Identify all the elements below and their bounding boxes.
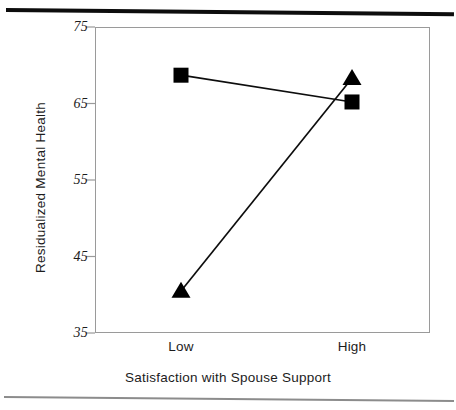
y-tick-label-55: 55 bbox=[54, 172, 88, 188]
x-axis-title: Satisfaction with Spouse Support bbox=[0, 370, 456, 385]
y-tick-label-35: 35 bbox=[54, 325, 88, 341]
y-axis-tick-labels: 3545556575 bbox=[50, 0, 88, 410]
series-line-triangle-series bbox=[181, 78, 352, 291]
data-point-triangle-high bbox=[343, 69, 362, 85]
x-tick-label-high: High bbox=[307, 339, 397, 354]
figure-container: 3545556575 Low High Satisfaction with Sp… bbox=[0, 0, 456, 410]
series-line-square-series bbox=[181, 75, 352, 102]
y-tick-label-65: 65 bbox=[54, 96, 88, 112]
y-tick-label-75: 75 bbox=[54, 19, 88, 35]
y-axis-title: Residualized Mental Health bbox=[33, 68, 48, 308]
data-point-triangle-low bbox=[172, 282, 191, 298]
series-lines bbox=[181, 75, 352, 291]
x-tick-label-low: Low bbox=[136, 339, 226, 354]
data-point-square-low bbox=[174, 68, 189, 83]
y-tick-label-45: 45 bbox=[54, 249, 88, 265]
data-point-square-high bbox=[345, 94, 360, 109]
